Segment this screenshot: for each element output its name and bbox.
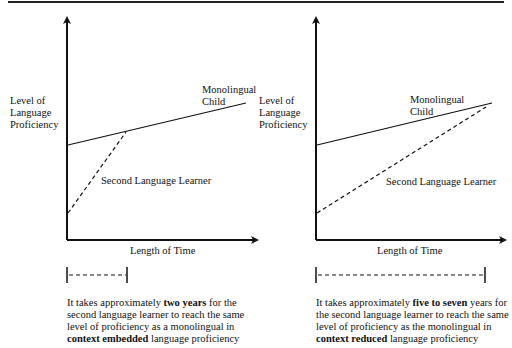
diagram-canvas — [0, 0, 512, 348]
left-y-axis-label: Level of Language Proficiency — [10, 95, 58, 131]
left-x-axis-label: Length of Time — [130, 245, 195, 257]
right-x-axis-label: Length of Time — [377, 245, 442, 257]
left-second-language-line — [68, 132, 126, 213]
right-monolingual-line — [317, 103, 492, 145]
left-time-span-bracket — [67, 267, 127, 283]
right-time-span-bracket — [316, 267, 485, 283]
right-second-language-line — [317, 107, 486, 213]
left-monolingual-label: Monolingual Child — [202, 84, 256, 108]
right-y-axis-label: Level of Language Proficiency — [259, 95, 307, 131]
left-monolingual-line — [68, 103, 246, 145]
left-caption: It takes approximately two years for the… — [67, 297, 267, 345]
right-monolingual-label: Monolingual Child — [410, 94, 464, 118]
right-caption: It takes approximately five to seven yea… — [316, 297, 512, 345]
left-second-language-label: Second Language Learner — [101, 175, 211, 187]
right-chart — [316, 20, 503, 283]
right-second-language-label: Second Language Learner — [386, 176, 496, 188]
left-chart — [67, 20, 255, 283]
